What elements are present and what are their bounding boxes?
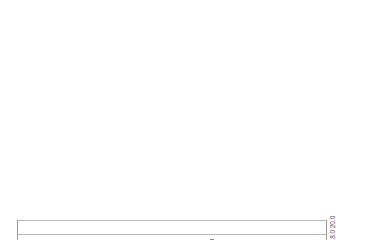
- rotated-chart-wrapper: 0.02.04.06.08.010.012.014.016.018.020.0 …: [0, 181, 368, 187]
- bar-chart-figure: 0.02.04.06.08.010.012.014.016.018.020.0 …: [0, 181, 368, 187]
